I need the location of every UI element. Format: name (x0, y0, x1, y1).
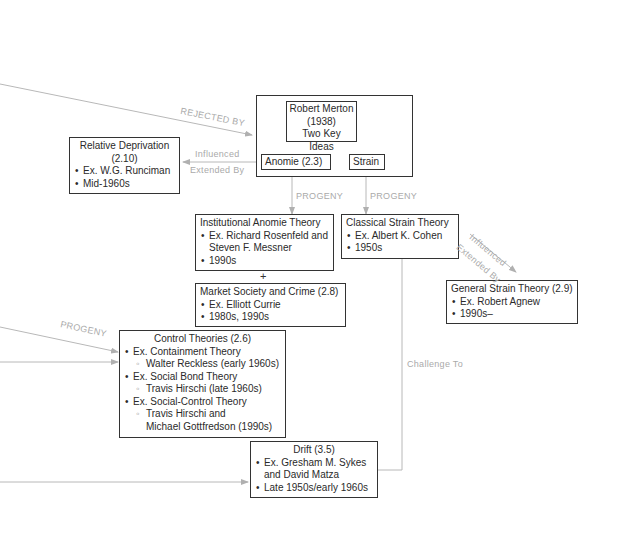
merton-name: Robert Merton (289, 103, 354, 116)
merton-subtitle: Two Key Ideas (289, 128, 354, 153)
plus-sign: + (260, 270, 266, 282)
bullet-continuation: Steven F. Messner (200, 242, 329, 255)
edge-challenge-to (378, 243, 402, 470)
bullet: Ex. Albert K. Cohen (346, 230, 454, 243)
bullet: 1980s, 1990s (200, 311, 341, 324)
sub-bullet-continuation: Michael Gottfredson (1990s) (124, 421, 281, 434)
market-society-title: Market Society and Crime (2.8) (200, 286, 341, 299)
merton-year: (1938) (289, 116, 354, 129)
sub-bullet: Travis Hirschi (late 1960s) (124, 383, 281, 396)
edge-label-influenced: Influenced (195, 149, 240, 159)
bullet: 1990s– (451, 308, 573, 321)
bullet: 1950s (346, 242, 454, 255)
merton-group-box: Robert Merton (1938) Two Key Ideas Anomi… (256, 95, 413, 177)
bullet: Mid-1960s (74, 178, 175, 191)
control-theories-node: Control Theories (2.6) Ex. Containment T… (119, 330, 286, 438)
classical-strain-node: Classical Strain Theory Ex. Albert K. Co… (341, 214, 459, 259)
bullet: Ex. Robert Agnew (451, 296, 573, 309)
bullet: Ex. Gresham M. Sykes (255, 457, 373, 470)
edge-label-challenge-to: Challenge To (407, 359, 463, 369)
control-theories-title: Control Theories (2.6) (124, 333, 281, 346)
relative-deprivation-node: Relative Deprivation (2.10) Ex. W.G. Run… (69, 137, 180, 194)
general-strain-node: General Strain Theory (2.9) Ex. Robert A… (446, 280, 578, 324)
drift-title: Drift (3.5) (255, 444, 373, 457)
bullet: Ex. Richard Rosenfeld and (200, 230, 329, 243)
edge-label-progeny-anomie: PROGENY (296, 191, 343, 201)
bullet: Ex. Containment Theory (124, 346, 281, 359)
bullet: Late 1950s/early 1960s (255, 482, 373, 495)
strain-node: Strain (349, 154, 385, 170)
strain-label: Strain (353, 156, 379, 167)
drift-node: Drift (3.5) Ex. Gresham M. Sykes and Dav… (250, 441, 378, 498)
edge-rejected-by (0, 84, 252, 135)
relative-deprivation-section: (2.10) (74, 153, 175, 166)
classical-strain-title: Classical Strain Theory (346, 217, 454, 230)
anomie-label: Anomie (2.3) (265, 156, 322, 167)
relative-deprivation-title: Relative Deprivation (74, 140, 175, 153)
edge-label-progeny-strain: PROGENY (370, 191, 417, 201)
edge-label-extended-by: Extended By (190, 165, 244, 175)
institutional-anomie-node: Institutional Anomie Theory Ex. Richard … (195, 214, 334, 271)
sub-bullet: Walter Reckless (early 1960s) (124, 358, 281, 371)
bullet: Ex. Elliott Currie (200, 299, 341, 312)
bullet: 1990s (200, 255, 329, 268)
sub-bullet: Travis Hirschi and (124, 408, 281, 421)
bullet-continuation: and David Matza (255, 469, 373, 482)
bullet: Ex. Social-Control Theory (124, 396, 281, 409)
anomie-node: Anomie (2.3) (261, 154, 331, 170)
bullet: Ex. W.G. Runciman (74, 165, 175, 178)
general-strain-title: General Strain Theory (2.9) (451, 283, 573, 296)
merton-node: Robert Merton (1938) Two Key Ideas (286, 101, 357, 142)
bullet: Ex. Social Bond Theory (124, 371, 281, 384)
institutional-anomie-title: Institutional Anomie Theory (200, 217, 329, 230)
market-society-node: Market Society and Crime (2.8) Ex. Ellio… (195, 283, 346, 327)
